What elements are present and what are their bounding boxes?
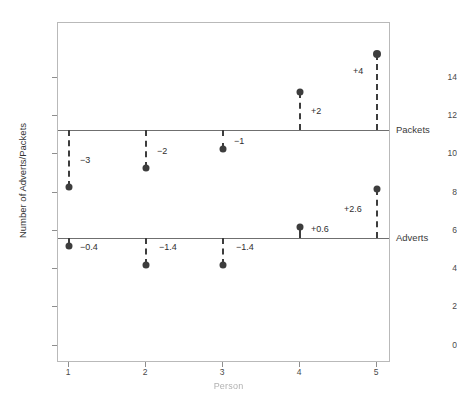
data-point-packets-1: [66, 184, 73, 191]
delta-label-adverts-5: +2.6: [344, 204, 362, 214]
stem-packets-1: [68, 130, 70, 187]
x-axis-title: Person: [0, 381, 457, 391]
y-tick-label: 14: [411, 73, 457, 82]
delta-label-packets-1: −3: [80, 155, 90, 165]
data-point-adverts-3: [220, 262, 227, 269]
data-point-packets-2: [143, 165, 150, 172]
data-point-adverts-5: [374, 186, 381, 193]
delta-label-packets-4: +2: [311, 106, 321, 116]
data-point-adverts-1: [66, 243, 73, 250]
reference-label-packets: Packets: [396, 124, 430, 135]
stem-packets-5: [376, 54, 378, 130]
y-axis-title: Number of Adverts/Packets: [17, 96, 28, 266]
x-tick-label: 2: [143, 368, 148, 377]
delta-label-packets-5: +4: [353, 66, 363, 76]
y-tick-label: 2: [411, 302, 457, 311]
stem-adverts-5: [376, 189, 378, 238]
plot-area: −3 −2 −1 +2 +4 −0.4 −1.4 −1.4 +0.6: [57, 22, 390, 362]
y-tick-label: 8: [411, 188, 457, 197]
x-tick-label: 4: [297, 368, 302, 377]
delta-label-packets-2: −2: [157, 146, 167, 156]
delta-label-adverts-4: +0.6: [311, 224, 329, 234]
stem-packets-4: [299, 92, 301, 130]
y-tick-label: 10: [411, 149, 457, 158]
y-tick-label: 12: [411, 111, 457, 120]
x-tick-label: 1: [66, 368, 71, 377]
delta-label-adverts-1: −0.4: [80, 242, 98, 252]
x-tick-label: 3: [220, 368, 225, 377]
data-point-packets-5: [373, 50, 381, 58]
delta-label-packets-3: −1: [234, 136, 244, 146]
reference-label-adverts: Adverts: [396, 232, 428, 243]
chart-figure: Number of Adverts/Packets 0 2 4 6 8 10 1…: [0, 0, 457, 402]
data-point-packets-3: [220, 146, 227, 153]
delta-label-adverts-2: −1.4: [159, 242, 177, 252]
y-tick-label: 4: [411, 264, 457, 273]
stem-packets-2: [145, 130, 147, 168]
data-point-adverts-4: [297, 224, 304, 231]
y-tick-label: 0: [411, 341, 457, 350]
x-tick-label: 5: [374, 368, 379, 377]
delta-label-adverts-3: −1.4: [236, 242, 254, 252]
data-point-adverts-2: [143, 262, 150, 269]
data-point-packets-4: [297, 89, 304, 96]
